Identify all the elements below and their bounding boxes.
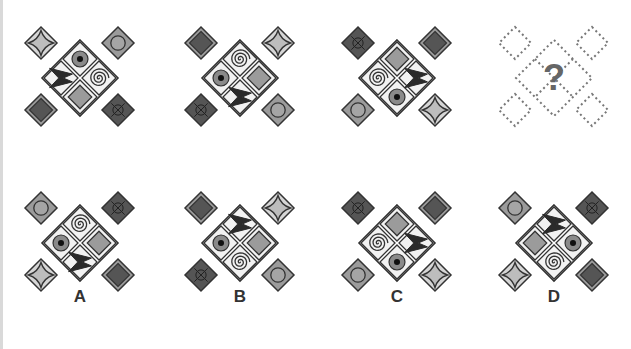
option-b-label[interactable]: B — [220, 287, 260, 307]
dark-square-icon — [102, 259, 134, 291]
panel-2-figure — [160, 0, 320, 140]
star-icon — [262, 192, 294, 224]
dark-square-icon — [576, 259, 608, 291]
dark-cross-icon — [102, 94, 134, 126]
dot-circle-icon — [389, 254, 405, 270]
dark-square-icon — [185, 192, 217, 224]
option-b[interactable] — [160, 165, 320, 305]
dot-circle-icon — [213, 235, 229, 251]
option-b-figure[interactable] — [160, 165, 320, 305]
option-c-figure[interactable] — [317, 165, 477, 305]
question-panel-2 — [160, 0, 320, 140]
star-icon — [419, 259, 451, 291]
question-panel-1 — [0, 0, 160, 140]
dark-cross-icon — [342, 192, 374, 224]
dot-circle-icon — [389, 89, 405, 105]
dot-circle-icon — [213, 70, 229, 86]
panel-1-figure — [0, 0, 160, 140]
dark-square-icon — [185, 27, 217, 59]
star-icon — [25, 27, 57, 59]
dark-cross-icon — [576, 192, 608, 224]
option-d-figure[interactable] — [474, 165, 631, 305]
placeholder-br — [576, 94, 608, 126]
dark-square-icon — [25, 94, 57, 126]
star-icon — [25, 259, 57, 291]
option-d[interactable] — [474, 165, 631, 305]
circle-icon — [25, 192, 57, 224]
dark-cross-icon — [185, 259, 217, 291]
circle-icon — [262, 94, 294, 126]
placeholder-tl — [499, 27, 531, 59]
dot-circle-icon — [72, 51, 88, 67]
dot-circle-icon — [53, 235, 69, 251]
circle-icon — [342, 94, 374, 126]
dot-circle-icon — [565, 235, 581, 251]
option-a[interactable] — [0, 165, 160, 305]
dark-cross-icon — [342, 27, 374, 59]
circle-icon — [262, 259, 294, 291]
circle-icon — [499, 192, 531, 224]
star-icon — [419, 94, 451, 126]
question-panel-3 — [317, 0, 477, 140]
unknown-figure: ? — [474, 0, 631, 140]
question-panel-unknown: ? — [474, 0, 631, 140]
placeholder-tr — [576, 27, 608, 59]
option-d-label[interactable]: D — [534, 287, 574, 307]
star-icon — [262, 27, 294, 59]
star-icon — [499, 259, 531, 291]
circle-icon — [102, 27, 134, 59]
dark-square-icon — [419, 192, 451, 224]
option-a-label[interactable]: A — [60, 287, 100, 307]
option-c-label[interactable]: C — [377, 287, 417, 307]
circle-icon — [342, 259, 374, 291]
panel-3-figure — [317, 0, 477, 140]
option-a-figure[interactable] — [0, 165, 160, 305]
dark-cross-icon — [102, 192, 134, 224]
question-mark: ? — [543, 57, 565, 98]
dark-cross-icon — [185, 94, 217, 126]
option-c[interactable] — [317, 165, 477, 305]
placeholder-bl — [499, 94, 531, 126]
dark-square-icon — [419, 27, 451, 59]
